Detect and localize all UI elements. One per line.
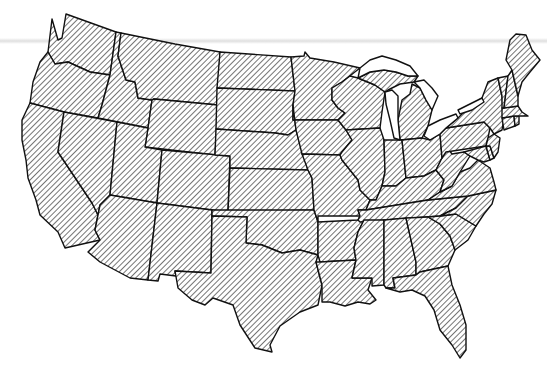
state-kansas[interactable] [228,168,314,212]
state-wyoming[interactable] [145,99,218,155]
state-north-dakota[interactable] [217,52,295,91]
lake-michigan [385,90,400,140]
state-colorado[interactable] [157,150,230,212]
states-layer [22,14,540,358]
us-states-map [0,0,547,370]
state-south-dakota[interactable] [216,88,296,135]
state-new-mexico[interactable] [148,203,212,281]
state-rhode-island[interactable] [514,116,519,126]
state-florida[interactable] [386,266,466,358]
